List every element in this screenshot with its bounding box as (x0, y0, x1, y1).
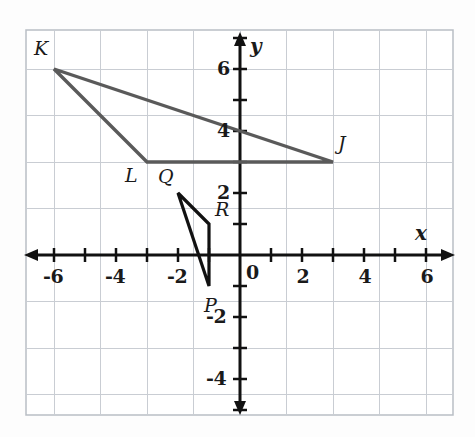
x-tick-label--4: -4 (105, 267, 125, 286)
point-label-l: L (125, 166, 138, 185)
y-tick-label-4: 4 (217, 121, 230, 140)
x-tick-label-2: 2 (297, 267, 310, 286)
y-axis-label: y (250, 36, 262, 56)
point-label-k: K (34, 39, 48, 58)
y-tick-label-6: 6 (217, 59, 230, 78)
x-axis-label: x (415, 223, 427, 243)
point-label-q: Q (158, 167, 174, 186)
y-tick-label--4: -4 (206, 369, 226, 388)
x-tick-label-0: 0 (246, 263, 259, 282)
graph-canvas (0, 0, 475, 437)
point-label-p: P (204, 296, 217, 315)
point-label-r: R (215, 200, 229, 219)
x-tick-label-6: 6 (421, 267, 434, 286)
x-tick-label--2: -2 (167, 267, 187, 286)
coordinate-plane-figure: x y -6-4-20246642-2-4KLJQRP (0, 0, 475, 437)
x-tick-label--6: -6 (43, 267, 63, 286)
x-tick-label-4: 4 (359, 267, 372, 286)
point-label-j: J (338, 134, 346, 153)
